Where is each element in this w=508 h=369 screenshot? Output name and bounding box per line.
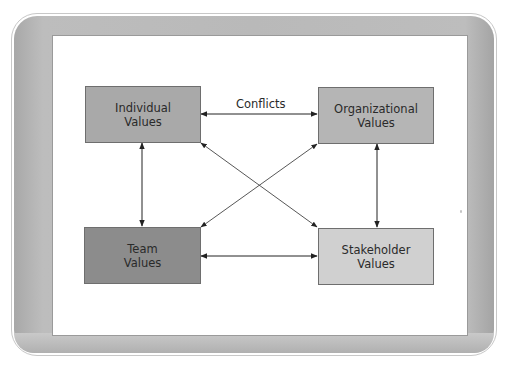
node-label: Organizational Values (334, 102, 418, 130)
node-individual-values: Individual Values (85, 86, 201, 143)
conflicts-label: Conflicts (236, 97, 286, 111)
scan-artifact (460, 210, 462, 213)
node-organizational-values: Organizational Values (318, 87, 434, 144)
node-stakeholder-values: Stakeholder Values (318, 228, 434, 285)
node-label: Team Values (124, 242, 162, 270)
diagram-connectors (0, 0, 508, 369)
node-label: Individual Values (115, 101, 171, 129)
node-label: Stakeholder Values (342, 243, 411, 271)
node-team-values: Team Values (84, 227, 201, 284)
